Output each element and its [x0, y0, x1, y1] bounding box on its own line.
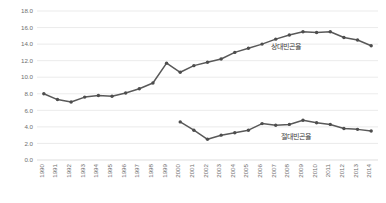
y-axis-tick-label: 18.0	[21, 7, 34, 14]
series-data-point	[247, 129, 250, 132]
series-data-point	[329, 123, 332, 126]
series-data-point	[329, 30, 332, 33]
y-axis-tick-label: 6.0	[24, 107, 33, 114]
series-data-point	[138, 87, 141, 90]
x-axis-tick-label: 2006	[256, 163, 263, 177]
x-axis-tick-label: 1992	[65, 163, 72, 177]
y-axis-tick-label: 12.0	[21, 57, 34, 64]
series-data-point	[301, 119, 304, 122]
series-data-point	[260, 42, 263, 45]
series-data-point	[124, 91, 127, 94]
x-axis-tick-label: 1991	[51, 163, 58, 177]
series-data-point	[315, 31, 318, 34]
x-axis-tick-label: 1990	[38, 163, 45, 177]
x-axis-tick-label: 2009	[297, 163, 304, 177]
x-axis-tick-label: 2002	[202, 163, 209, 177]
x-axis-tick-label: 1996	[120, 163, 127, 177]
series-data-point	[369, 44, 372, 47]
y-axis-tick-labels: 18.016.014.012.010.08.06.04.02.00.0	[21, 7, 34, 163]
x-axis-tick-label: 2001	[188, 163, 195, 177]
chart-container: 18.016.014.012.010.08.06.04.02.00.0 1990…	[0, 0, 386, 203]
series-data-point	[219, 57, 222, 60]
series-data-point	[342, 36, 345, 39]
y-axis-tick-label: 14.0	[21, 40, 34, 47]
series-data-point	[83, 95, 86, 98]
series-data-point	[356, 128, 359, 131]
line-chart: 18.016.014.012.010.08.06.04.02.00.0 1990…	[0, 0, 386, 203]
y-axis-tick-label: 4.0	[24, 123, 33, 130]
series-data-point	[192, 129, 195, 132]
series-data-point	[288, 33, 291, 36]
x-axis-tick-label: 1993	[79, 163, 86, 177]
data-series-group	[42, 30, 373, 141]
series-data-point	[274, 37, 277, 40]
series-line	[44, 32, 371, 102]
x-axis-tick-label: 2004	[229, 163, 236, 177]
series-data-point	[301, 30, 304, 33]
series-data-point	[206, 138, 209, 141]
series-data-point	[110, 95, 113, 98]
x-axis-tick-label: 2014	[365, 163, 372, 177]
x-axis-tick-label: 1999	[161, 163, 168, 177]
x-axis-tick-label: 1995	[106, 163, 113, 177]
series-data-point	[192, 64, 195, 67]
series-data-point	[315, 121, 318, 124]
series-annotation-label: 상대빈곤율	[271, 42, 302, 51]
series-data-point	[356, 38, 359, 41]
x-axis-tick-label: 2005	[242, 163, 249, 177]
series-data-point	[260, 122, 263, 125]
series-data-point	[165, 61, 168, 64]
series-data-point	[274, 124, 277, 127]
x-axis-tick-label: 2003	[215, 163, 222, 177]
y-axis-tick-label: 8.0	[24, 90, 33, 97]
series-data-point	[97, 94, 100, 97]
x-axis-tick-label: 1994	[92, 163, 99, 177]
y-axis-tick-label: 10.0	[21, 73, 34, 80]
series-data-point	[233, 131, 236, 134]
series-data-point	[179, 120, 182, 123]
x-axis-tick-label: 2008	[283, 163, 290, 177]
x-axis-tick-label: 2000	[174, 163, 181, 177]
y-axis-tick-label: 2.0	[24, 140, 33, 147]
x-axis-tick-labels: 1990199119921993199419951996199719981999…	[38, 163, 372, 177]
series-data-point	[247, 47, 250, 50]
series-data-point	[69, 100, 72, 103]
x-axis-tick-label: 2011	[324, 163, 331, 177]
plot-area-wrapper: 18.016.014.012.010.08.06.04.02.00.0 1990…	[0, 0, 386, 203]
series-data-point	[206, 61, 209, 64]
series-data-point	[56, 98, 59, 101]
y-axis-tick-label: 16.0	[21, 24, 34, 31]
series-annotation-label: 절대빈곤율	[281, 132, 312, 141]
x-axis-tick-label: 1997	[133, 163, 140, 177]
x-axis-tick-label: 2012	[338, 163, 345, 177]
series-data-point	[42, 92, 45, 95]
series-data-point	[233, 51, 236, 54]
series-data-point	[288, 123, 291, 126]
series-data-point	[151, 81, 154, 84]
series-line	[180, 120, 371, 139]
x-axis-tick-label: 2013	[352, 163, 359, 177]
y-axis-tick-label: 0.0	[24, 156, 33, 163]
series-data-point	[179, 71, 182, 74]
x-axis-tick-label: 2010	[311, 163, 318, 177]
x-axis-tick-label: 2007	[270, 163, 277, 177]
series-data-point	[219, 133, 222, 136]
series-data-point	[342, 127, 345, 130]
series-data-point	[369, 129, 372, 132]
x-axis-tick-label: 1998	[147, 163, 154, 177]
